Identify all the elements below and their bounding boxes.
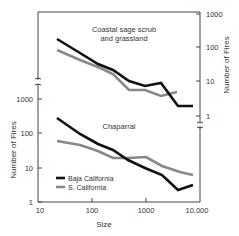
xtick-10000: 10,000 xyxy=(186,206,209,215)
x-ticks xyxy=(92,198,146,202)
xtick-1000: 1000 xyxy=(138,206,155,215)
right-y-axis-title: Number of Fires xyxy=(222,36,231,93)
legend: Baja California S. California xyxy=(56,175,114,191)
right-ytick-10: 10 xyxy=(206,77,214,86)
upper-baja-line xyxy=(57,39,193,106)
left-y-ticks xyxy=(38,99,42,202)
right-ytick-100: 100 xyxy=(206,43,219,52)
xtick-100: 100 xyxy=(86,206,99,215)
legend-label-socal: S. California xyxy=(68,184,106,191)
upper-panel-title-line1: Coastal sage scrub xyxy=(92,25,156,34)
left-y-axis-title: Number of Fires xyxy=(9,121,18,178)
left-ytick-10: 10 xyxy=(25,164,33,173)
upper-panel-title-line2: and grassland xyxy=(100,34,147,43)
legend-label-baja: Baja California xyxy=(68,175,114,183)
lower-panel-title: Chaparral xyxy=(103,122,136,131)
right-ytick-1000: 1000 xyxy=(206,10,223,19)
chart-figure: 1000 100 10 1 Number of Fires 1000 100 1… xyxy=(0,0,239,236)
left-ytick-100: 100 xyxy=(20,129,33,138)
right-ytick-1: 1 xyxy=(206,112,210,121)
left-ytick-1: 1 xyxy=(29,198,33,207)
x-axis-title: Size xyxy=(96,220,112,229)
xtick-10: 10 xyxy=(36,206,44,215)
axis-break-right xyxy=(197,122,203,123)
left-ytick-1000: 1000 xyxy=(16,95,33,104)
right-y-ticks xyxy=(196,14,200,116)
